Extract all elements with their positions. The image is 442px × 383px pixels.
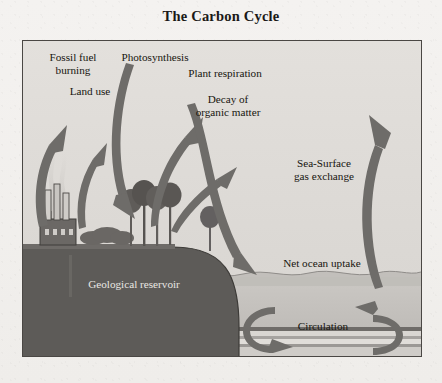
label-decay-organic-matter: Decay of organic matter: [173, 93, 283, 118]
label-circulation: Circulation: [275, 320, 371, 333]
reservoir-shaft: [69, 255, 72, 297]
label-net-ocean-uptake: Net ocean uptake: [257, 257, 387, 270]
label-plant-respiration: Plant respiration: [165, 67, 285, 80]
page-title: The Carbon Cycle: [0, 8, 442, 25]
label-sea-surface-gas-exchange: Sea-Surface gas exchange: [271, 157, 377, 182]
label-photosynthesis: Photosynthesis: [101, 51, 209, 64]
label-land-use: Land use: [55, 85, 125, 98]
geological-reservoir-mass: [23, 247, 239, 356]
diagram-frame: Fossil fuel burning Photosynthesis Land …: [22, 40, 422, 357]
label-geological-reservoir: Geological reservoir: [61, 278, 207, 291]
